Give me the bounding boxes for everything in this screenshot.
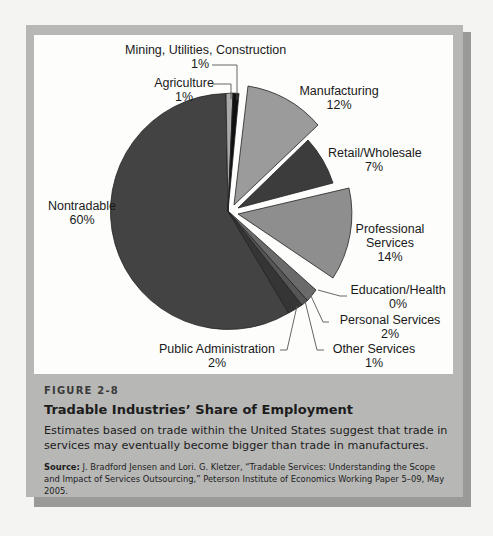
label-manufacturing-name: Manufacturing (294, 84, 384, 98)
label-mining: Mining, Utilities, Construction 1% (125, 43, 285, 71)
label-professional-name1: Professional (350, 222, 430, 236)
label-personal: Personal Services 2% (335, 313, 445, 341)
figure-caption: FIGURE 2-8 Tradable Industries’ Share of… (44, 385, 449, 497)
label-nontradable: Nontradable 60% (42, 199, 122, 227)
figure-title: Tradable Industries’ Share of Employment (44, 402, 449, 417)
label-other-pct: 1% (330, 356, 418, 370)
label-manufacturing: Manufacturing 12% (294, 84, 384, 112)
label-personal-name: Personal Services (335, 313, 445, 327)
label-retail: Retail/Wholesale 7% (328, 146, 420, 174)
label-professional-name2: Services (350, 236, 430, 250)
label-other: Other Services 1% (330, 342, 418, 370)
label-education: Education/Health 0% (348, 283, 448, 311)
label-professional-pct: 14% (350, 250, 430, 264)
label-retail-name: Retail/Wholesale (328, 146, 420, 160)
label-education-name: Education/Health (348, 283, 448, 297)
figure-description: Estimates based on trade within the Unit… (44, 423, 449, 453)
label-public: Public Administration 2% (158, 342, 276, 370)
label-mining-pct: 1% (115, 57, 285, 71)
label-professional: Professional Services 14% (350, 222, 430, 264)
figure-source: Source: J. Bradford Jensen and Lori. G. … (44, 461, 449, 497)
figure-number: FIGURE 2-8 (44, 385, 449, 396)
label-mining-name: Mining, Utilities, Construction (125, 43, 285, 57)
label-personal-pct: 2% (335, 327, 445, 341)
label-nontradable-name: Nontradable (42, 199, 122, 213)
label-nontradable-pct: 60% (42, 213, 122, 227)
label-public-name: Public Administration (158, 342, 276, 356)
source-text: J. Bradford Jensen and Lori. G. Kletzer,… (44, 462, 444, 496)
source-label: Source: (44, 462, 80, 472)
label-manufacturing-pct: 12% (294, 98, 384, 112)
label-education-pct: 0% (348, 297, 448, 311)
label-retail-pct: 7% (328, 160, 420, 174)
label-agriculture-name: Agriculture (144, 76, 224, 90)
label-public-pct: 2% (158, 356, 276, 370)
label-other-name: Other Services (330, 342, 418, 356)
label-agriculture-pct: 1% (144, 90, 224, 104)
label-agriculture: Agriculture 1% (144, 76, 224, 104)
